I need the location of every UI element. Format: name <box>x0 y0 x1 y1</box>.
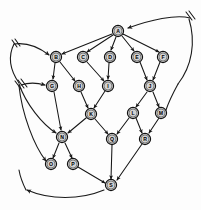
edge-k-n <box>68 118 86 133</box>
edge-n-p <box>65 143 72 158</box>
edge-p-s <box>78 167 105 183</box>
graph-node-k[interactable]: K <box>85 108 96 119</box>
edge-f-j <box>153 62 160 80</box>
graph-node-n[interactable]: N <box>56 131 67 142</box>
graph-node-j[interactable]: J <box>144 80 155 91</box>
node-label: N <box>60 134 64 140</box>
edge-c-i <box>87 62 104 81</box>
edge-left-outer-upper <box>11 44 19 83</box>
edge-a-c <box>87 35 113 52</box>
edge-a-b <box>62 34 112 54</box>
node-label: B <box>54 54 58 60</box>
node-label: E <box>135 54 139 60</box>
edge-g-n <box>54 92 61 130</box>
graph-node-e[interactable]: E <box>131 51 142 62</box>
node-label: J <box>149 83 152 89</box>
edge-h-k <box>81 92 88 108</box>
graph-node-a[interactable]: A <box>112 25 123 36</box>
graph-figure: ABCDEFGHIJKLMNQROPS <box>0 0 201 210</box>
edge-a-d <box>111 37 116 50</box>
graph-node-g[interactable]: G <box>46 80 57 91</box>
edge-a-f <box>123 34 159 52</box>
node-label: S <box>109 182 113 188</box>
node-label: M <box>159 110 163 116</box>
edge-k-q <box>95 119 108 134</box>
graph-node-s[interactable]: S <box>105 179 116 190</box>
graph-node-b[interactable]: B <box>50 51 61 62</box>
edge-l-q <box>117 118 129 134</box>
edge-i-k <box>94 91 105 108</box>
node-label: H <box>77 83 81 89</box>
edge-j-l <box>136 92 147 107</box>
node-label: R <box>143 136 147 142</box>
graph-node-c[interactable]: C <box>77 51 88 62</box>
graph-node-f[interactable]: F <box>157 51 168 62</box>
graph-node-p[interactable]: P <box>67 158 78 169</box>
node-label: G <box>50 83 54 89</box>
graph-node-i[interactable]: I <box>102 80 113 91</box>
graph-node-r[interactable]: R <box>139 133 150 144</box>
node-label: D <box>108 54 112 60</box>
graph-canvas: ABCDEFGHIJKLMNQROPS <box>0 0 201 210</box>
edge-lower-left-to-o <box>19 86 46 161</box>
graph-node-m[interactable]: M <box>155 107 166 118</box>
edge-j-m <box>153 92 159 107</box>
node-layer: ABCDEFGHIJKLMNQROPS <box>45 25 168 190</box>
edge-b-h <box>60 62 75 81</box>
edge-n-o <box>53 143 59 158</box>
node-label: P <box>71 161 75 167</box>
node-label: K <box>89 111 93 117</box>
node-label: F <box>161 54 164 60</box>
edge-r-s <box>117 144 142 180</box>
edge-lower-left-joint <box>19 170 26 190</box>
edge-s-to-lower-left <box>27 190 104 198</box>
graph-node-o[interactable]: O <box>45 158 56 169</box>
edge-right-to-a <box>128 17 190 28</box>
edge-d-i <box>108 63 109 79</box>
node-label: Q <box>110 136 114 142</box>
edge-m-r <box>149 118 159 133</box>
long-edge-layer <box>11 11 195 198</box>
node-label: O <box>49 161 53 167</box>
edge-right-outer-curve <box>178 19 192 84</box>
edge-b-g <box>53 63 55 79</box>
node-label: C <box>81 54 85 60</box>
graph-node-d[interactable]: D <box>104 51 115 62</box>
edge-l-r <box>136 118 142 133</box>
edge-right-lower-curve <box>166 84 178 110</box>
edge-q-s <box>111 145 112 179</box>
node-label: A <box>116 28 120 34</box>
graph-node-q[interactable]: Q <box>106 133 117 144</box>
edge-e-j <box>140 62 147 80</box>
graph-node-l[interactable]: L <box>127 107 138 118</box>
graph-node-h[interactable]: H <box>73 80 84 91</box>
